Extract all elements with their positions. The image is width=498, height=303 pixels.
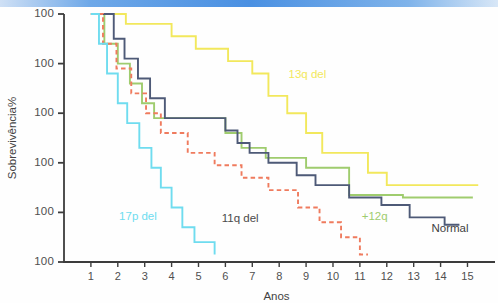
x-tick-label: 3 (142, 270, 148, 282)
x-tick-label: 8 (276, 270, 282, 282)
y-tick-label: 100 (34, 7, 54, 19)
x-axis-ticks: 123456789101112131415 (88, 262, 474, 282)
x-tick-label: 15 (461, 270, 473, 282)
curve--12q (91, 14, 473, 198)
curve-label-normal: Normal (431, 222, 468, 234)
x-tick-label: 10 (327, 270, 339, 282)
curve-label-11q-del: 11q del (222, 212, 259, 224)
curve-label-group: 13q del+12qNormal11q del17p del (119, 68, 468, 234)
y-axis-title: Sobrevivência% (6, 97, 18, 179)
x-tick-label: 6 (222, 270, 228, 282)
x-axis-title: Anos (263, 290, 289, 302)
x-tick-label: 5 (195, 270, 201, 282)
y-tick-label: 100 (34, 156, 54, 168)
y-tick-label: 100 (34, 205, 54, 217)
x-tick-label: 13 (408, 270, 420, 282)
y-axis-ticks: 100100100100100100 (34, 7, 64, 267)
x-tick-label: 2 (115, 270, 121, 282)
x-tick-label: 7 (249, 270, 255, 282)
x-tick-label: 4 (169, 270, 175, 282)
x-tick-label: 1 (88, 270, 94, 282)
y-tick-label: 100 (34, 57, 54, 69)
curve-normal (91, 14, 460, 225)
y-tick-label: 100 (34, 255, 54, 267)
x-tick-label: 12 (381, 270, 393, 282)
curve-13q-del (91, 14, 478, 185)
y-tick-label: 100 (34, 106, 54, 118)
curve-label--12q: +12q (362, 210, 388, 222)
curve-label-17p-del: 17p del (119, 210, 157, 222)
curve-label-13q-del: 13q del (289, 68, 327, 80)
x-tick-label: 11 (354, 270, 365, 282)
x-tick-label: 9 (303, 270, 309, 282)
survival-curve-svg: 100100100100100100 123456789101112131415… (0, 0, 498, 303)
plot-area: 100100100100100100 123456789101112131415… (0, 0, 498, 303)
chart-figure: 100100100100100100 123456789101112131415… (0, 0, 498, 303)
x-tick-label: 14 (434, 270, 446, 282)
